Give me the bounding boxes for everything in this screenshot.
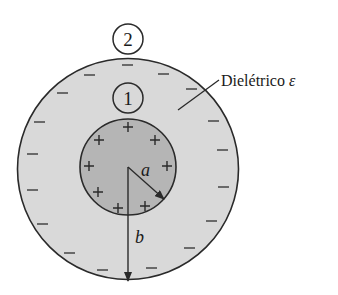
radius-a-label: a <box>141 160 150 180</box>
region-marker-1: 1 <box>113 83 143 113</box>
region-marker-2: 2 <box>113 24 143 54</box>
dielectric-label: Dielétrico ε <box>221 72 296 89</box>
radius-b-label: b <box>135 227 144 247</box>
region-1-label: 1 <box>123 88 133 109</box>
spherical-capacitor-diagram: 2 1 a b Dielé <box>0 0 338 295</box>
region-2-label: 2 <box>123 29 133 50</box>
